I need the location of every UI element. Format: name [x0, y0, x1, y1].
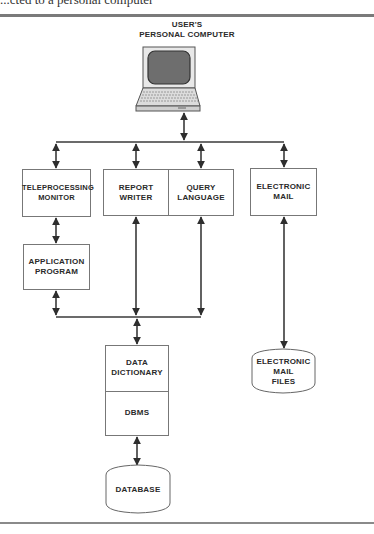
teleprocessing-monitor-label: TELEPROCESSING MONITOR — [22, 183, 91, 203]
query-language-label: QUERY LANGUAGE — [168, 183, 234, 203]
label-line: MAIL — [251, 367, 316, 377]
label-line: TELEPROCESSING — [22, 183, 91, 193]
personal-computer-icon — [136, 47, 200, 111]
pc-title-line2: PERSONAL COMPUTER — [110, 30, 264, 40]
label-line: APPLICATION — [23, 257, 90, 267]
report-writer-label: REPORT WRITER — [103, 183, 169, 203]
label-line: ELECTRONIC — [250, 182, 317, 192]
label-line: MONITOR — [22, 193, 91, 203]
label-line: REPORT — [103, 183, 169, 193]
pc-title-line1: USER'S — [110, 20, 264, 30]
label-line: FILES — [251, 377, 316, 387]
connector-lines — [56, 113, 284, 465]
label-line: QUERY — [168, 183, 234, 193]
dbms-label: DBMS — [105, 408, 169, 418]
application-program-label: APPLICATION PROGRAM — [23, 257, 90, 277]
electronic-mail-files-label: ELECTRONIC MAIL FILES — [251, 357, 316, 387]
label-line: DICTIONARY — [105, 368, 169, 378]
electronic-mail-label: ELECTRONIC MAIL — [250, 182, 317, 202]
label-line: WRITER — [103, 193, 169, 203]
label-line: DATABASE — [106, 485, 170, 495]
label-line: PROGRAM — [23, 267, 90, 277]
label-line: DBMS — [105, 408, 169, 418]
label-line: LANGUAGE — [168, 193, 234, 203]
dictionary-dbms-divider — [105, 391, 169, 392]
database-label: DATABASE — [106, 485, 170, 495]
label-line: ELECTRONIC — [251, 357, 316, 367]
pc-title: USER'S PERSONAL COMPUTER — [110, 20, 264, 40]
data-dictionary-label: DATA DICTIONARY — [105, 358, 169, 378]
label-line: DATA — [105, 358, 169, 368]
label-line: MAIL — [250, 192, 317, 202]
